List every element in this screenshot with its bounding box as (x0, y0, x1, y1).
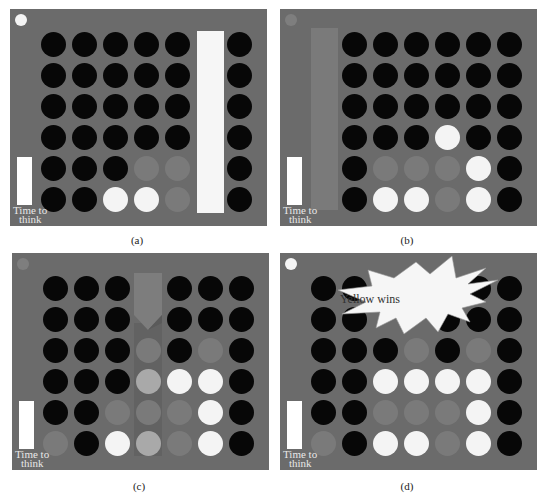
grid-slot[interactable] (373, 63, 398, 88)
grid-slot[interactable] (497, 400, 522, 425)
grid-slot[interactable] (373, 369, 398, 394)
grid-slot[interactable] (165, 187, 190, 212)
grid-slot[interactable] (134, 63, 159, 88)
grid-slot[interactable] (136, 338, 161, 363)
grid-slot[interactable] (404, 32, 429, 57)
grid-slot[interactable] (373, 187, 398, 212)
grid-slot[interactable] (74, 369, 99, 394)
grid-slot[interactable] (136, 369, 161, 394)
grid-slot[interactable] (134, 156, 159, 181)
grid-slot[interactable] (41, 156, 66, 181)
grid-slot[interactable] (311, 307, 336, 332)
grid-slot[interactable] (198, 400, 223, 425)
grid-slot[interactable] (466, 94, 491, 119)
grid-slot[interactable] (342, 63, 367, 88)
grid-slot[interactable] (74, 400, 99, 425)
grid-slot[interactable] (167, 431, 192, 456)
grid-slot[interactable] (134, 94, 159, 119)
grid-slot[interactable] (229, 431, 254, 456)
grid-slot[interactable] (466, 369, 491, 394)
grid-slot[interactable] (105, 338, 130, 363)
grid-slot[interactable] (103, 125, 128, 150)
grid-slot[interactable] (497, 125, 522, 150)
grid-slot[interactable] (165, 94, 190, 119)
grid-slot[interactable] (105, 369, 130, 394)
grid-slot[interactable] (435, 400, 460, 425)
grid-slot[interactable] (342, 94, 367, 119)
grid-slot[interactable] (167, 338, 192, 363)
grid-slot[interactable] (103, 32, 128, 57)
grid-slot[interactable] (435, 32, 460, 57)
grid-slot[interactable] (435, 431, 460, 456)
grid-slot[interactable] (105, 431, 130, 456)
grid-slot[interactable] (198, 276, 223, 301)
grid-slot[interactable] (198, 338, 223, 363)
grid-slot[interactable] (373, 156, 398, 181)
grid-slot[interactable] (227, 94, 252, 119)
grid-slot[interactable] (466, 156, 491, 181)
grid-slot[interactable] (373, 94, 398, 119)
grid-slot[interactable] (342, 431, 367, 456)
grid-slot[interactable] (105, 400, 130, 425)
grid-slot[interactable] (435, 156, 460, 181)
grid-slot[interactable] (167, 369, 192, 394)
grid-slot[interactable] (229, 338, 254, 363)
grid-slot[interactable] (41, 32, 66, 57)
grid-slot[interactable] (466, 125, 491, 150)
grid-slot[interactable] (41, 125, 66, 150)
grid-slot[interactable] (435, 125, 460, 150)
grid-slot[interactable] (167, 276, 192, 301)
grid-slot[interactable] (227, 187, 252, 212)
grid-slot[interactable] (43, 307, 68, 332)
grid-slot[interactable] (435, 187, 460, 212)
grid-slot[interactable] (198, 369, 223, 394)
grid-slot[interactable] (134, 32, 159, 57)
column-selection-bar[interactable] (311, 28, 338, 210)
grid-slot[interactable] (41, 94, 66, 119)
grid-slot[interactable] (105, 276, 130, 301)
grid-slot[interactable] (229, 276, 254, 301)
grid-slot[interactable] (136, 431, 161, 456)
grid-slot[interactable] (404, 187, 429, 212)
grid-slot[interactable] (497, 187, 522, 212)
grid-slot[interactable] (74, 276, 99, 301)
grid-slot[interactable] (342, 125, 367, 150)
grid-slot[interactable] (466, 187, 491, 212)
grid-slot[interactable] (435, 94, 460, 119)
grid-slot[interactable] (404, 63, 429, 88)
grid-slot[interactable] (466, 63, 491, 88)
grid-slot[interactable] (404, 431, 429, 456)
grid-slot[interactable] (72, 32, 97, 57)
grid-slot[interactable] (311, 369, 336, 394)
grid-slot[interactable] (198, 307, 223, 332)
grid-slot[interactable] (229, 307, 254, 332)
grid-slot[interactable] (342, 32, 367, 57)
grid-slot[interactable] (134, 187, 159, 212)
grid-slot[interactable] (466, 32, 491, 57)
grid-slot[interactable] (165, 125, 190, 150)
grid-slot[interactable] (165, 156, 190, 181)
grid-slot[interactable] (43, 338, 68, 363)
grid-slot[interactable] (74, 338, 99, 363)
grid-slot[interactable] (167, 400, 192, 425)
grid-slot[interactable] (72, 63, 97, 88)
column-selection-bar[interactable] (197, 31, 224, 213)
grid-slot[interactable] (74, 431, 99, 456)
grid-slot[interactable] (404, 400, 429, 425)
grid-slot[interactable] (103, 94, 128, 119)
grid-slot[interactable] (198, 431, 223, 456)
grid-slot[interactable] (435, 369, 460, 394)
grid-slot[interactable] (103, 156, 128, 181)
grid-slot[interactable] (373, 32, 398, 57)
grid-slot[interactable] (74, 307, 99, 332)
grid-slot[interactable] (342, 156, 367, 181)
grid-slot[interactable] (43, 400, 68, 425)
grid-slot[interactable] (404, 369, 429, 394)
grid-slot[interactable] (103, 187, 128, 212)
grid-slot[interactable] (342, 187, 367, 212)
grid-slot[interactable] (227, 63, 252, 88)
grid-slot[interactable] (72, 125, 97, 150)
grid-slot[interactable] (497, 431, 522, 456)
grid-slot[interactable] (72, 187, 97, 212)
grid-slot[interactable] (373, 125, 398, 150)
